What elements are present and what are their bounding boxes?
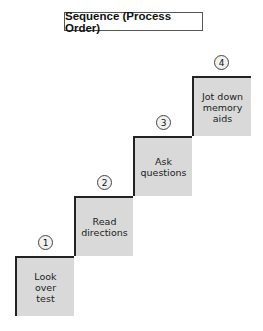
step-4-label: Jot down memory aids xyxy=(202,91,243,124)
step-number-4: 4 xyxy=(214,55,229,70)
diagram-title: Sequence (Process Order) xyxy=(64,12,203,31)
step-number-1: 1 xyxy=(38,235,53,250)
step-1-label: Look over test xyxy=(34,271,56,304)
step-1: Look over test xyxy=(15,256,74,316)
step-2-label: Read directions xyxy=(81,216,128,238)
step-3-label: Ask questions xyxy=(141,156,187,178)
step-2: Read directions xyxy=(74,196,133,256)
step-4: Jot down memory aids xyxy=(192,76,251,136)
step-number-3: 3 xyxy=(156,115,171,130)
step-number-2: 2 xyxy=(97,175,112,190)
step-3: Ask questions xyxy=(133,136,192,196)
